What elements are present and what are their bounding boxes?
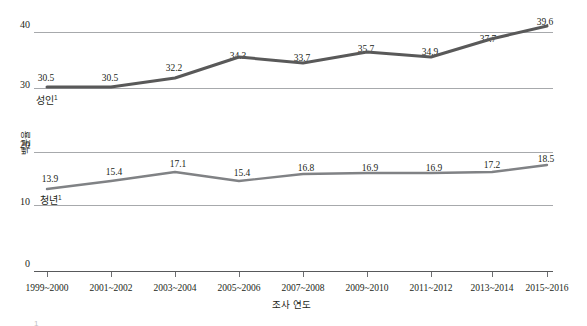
series-line-youth bbox=[47, 165, 547, 189]
x-tick-5 bbox=[367, 272, 368, 277]
x-tick-8 bbox=[547, 272, 548, 277]
x-tick-3 bbox=[239, 272, 240, 277]
series-lines bbox=[0, 0, 587, 326]
footnote: 1 bbox=[34, 319, 38, 326]
x-tick-0 bbox=[47, 272, 48, 277]
x-axis-title: 조사 연도 bbox=[272, 299, 311, 310]
x-tick-7 bbox=[492, 272, 493, 277]
x-tick-4 bbox=[303, 272, 304, 277]
chart-container: 40 30 성인1 30.5 30.5 32.2 34.3 33.7 35.7 … bbox=[0, 0, 587, 326]
x-tick-6 bbox=[431, 272, 432, 277]
series-line-adult bbox=[47, 26, 547, 87]
x-tick-label-8: 2015~2016 bbox=[507, 283, 587, 293]
x-tick-1 bbox=[111, 272, 112, 277]
x-tick-2 bbox=[175, 272, 176, 277]
